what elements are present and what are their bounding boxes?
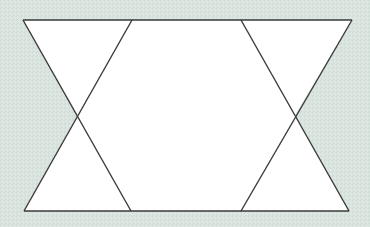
geometry-figure — [0, 0, 370, 227]
diagram-canvas — [0, 0, 370, 227]
